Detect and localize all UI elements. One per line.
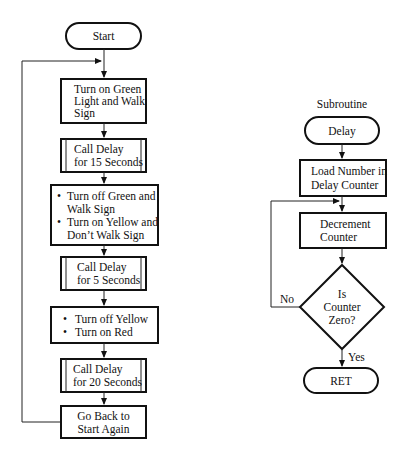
step5-line1: Turn off Yellow: [75, 313, 149, 325]
step2-line2: for 15 Seconds: [74, 156, 144, 168]
step6-line2: for 20 Seconds: [73, 376, 143, 388]
subroutine-title: Subroutine: [317, 98, 367, 110]
decision-line3: Zero?: [329, 314, 356, 326]
delay-entry-label: Delay: [328, 125, 356, 138]
bullet-icon: •: [63, 326, 67, 338]
flowchart-canvas: Start Turn on Green Light and Walk Sign …: [0, 0, 407, 454]
step1-line1: Turn on Green: [74, 83, 142, 95]
load-counter-box: Load Number in Delay Counter: [300, 160, 387, 196]
no-label: No: [280, 293, 294, 305]
step1-line3: Sign: [74, 107, 95, 120]
ret-label: RET: [330, 375, 352, 387]
decrement-line2: Counter: [320, 231, 357, 243]
yes-label: Yes: [348, 351, 365, 363]
load-line1: Load Number in: [311, 165, 387, 177]
start-label: Start: [93, 30, 116, 42]
decision-line2: Counter: [323, 301, 360, 313]
start-terminal: Start: [66, 23, 141, 49]
delay-entry-terminal: Delay: [305, 117, 379, 144]
step4-line2: for 5 Seconds: [77, 274, 141, 286]
step3-line1: Turn off Green and: [67, 190, 156, 202]
step2-line1: Call Delay: [74, 143, 124, 156]
step3-line3: Turn on Yellow and: [67, 216, 158, 228]
decision-counter-zero: Is Counter Zero?: [300, 265, 384, 349]
step7-line1: Go Back to: [77, 410, 130, 422]
bullet-icon: •: [63, 313, 67, 325]
step7-line2: Start Again: [77, 423, 129, 436]
step-call-delay-5: Call Delay for 5 Seconds: [61, 257, 146, 290]
step-go-back: Go Back to Start Again: [61, 406, 146, 438]
step3-line4: Don’t Walk Sign: [67, 229, 144, 242]
ret-terminal: RET: [304, 368, 378, 393]
decision-line1: Is: [338, 288, 347, 300]
step-turn-on-green: Turn on Green Light and Walk Sign: [61, 79, 146, 123]
step-turn-off-yellow-on-red: • Turn off Yellow • Turn on Red: [51, 307, 158, 343]
decrement-line1: Decrement: [320, 218, 371, 230]
step-turn-off-green-on-yellow: • Turn off Green and Walk Sign • Turn on…: [51, 185, 158, 245]
main-flowchart: Start Turn on Green Light and Walk Sign …: [22, 23, 158, 438]
bullet-icon: •: [57, 190, 61, 202]
step3-line2: Walk Sign: [67, 203, 115, 216]
load-line2: Delay Counter: [311, 179, 379, 192]
decrement-counter-box: Decrement Counter: [300, 213, 386, 248]
step6-line1: Call Delay: [73, 363, 123, 376]
step-call-delay-15: Call Delay for 15 Seconds: [61, 139, 146, 172]
subroutine-flowchart: Subroutine Delay Load Number in Delay Co…: [271, 98, 387, 393]
step4-line1: Call Delay: [77, 261, 127, 274]
bullet-icon: •: [57, 216, 61, 228]
step-call-delay-20: Call Delay for 20 Seconds: [61, 359, 146, 392]
step5-line2: Turn on Red: [75, 326, 133, 338]
